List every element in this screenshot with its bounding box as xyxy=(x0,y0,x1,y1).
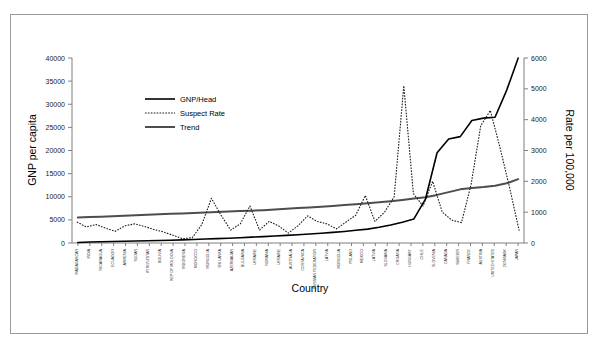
svg-text:20000: 20000 xyxy=(46,147,66,154)
svg-text:COSTA RICA: COSTA RICA xyxy=(301,248,305,270)
svg-text:2000: 2000 xyxy=(531,178,547,185)
svg-text:4000: 4000 xyxy=(531,116,547,123)
svg-text:INDONESIA: INDONESIA xyxy=(182,248,186,268)
svg-text:MEXICO: MEXICO xyxy=(360,249,364,263)
svg-text:0: 0 xyxy=(531,240,535,247)
svg-text:MOROCCO: MOROCCO xyxy=(194,249,198,268)
svg-text:DENMARK: DENMARK xyxy=(503,248,507,267)
svg-text:ECUADOR: ECUADOR xyxy=(111,249,115,267)
svg-text:MONGOLIA: MONGOLIA xyxy=(206,248,210,268)
svg-text:REP OF MOLDOVA: REP OF MOLDOVA xyxy=(170,248,174,281)
svg-text:ARMENIA: ARMENIA xyxy=(123,248,127,265)
svg-text:SRI LANKA: SRI LANKA xyxy=(218,248,222,267)
svg-text:AUSTRIA: AUSTRIA xyxy=(479,248,483,264)
svg-text:BULGARIA: BULGARIA xyxy=(241,248,245,267)
legend-label-suspect-rate: Suspect Rate xyxy=(180,109,225,118)
chart-svg: 0500010000150002000025000300003500040000… xyxy=(0,0,608,350)
svg-text:LATVIA: LATVIA xyxy=(372,248,376,261)
svg-text:ROMANIA: ROMANIA xyxy=(265,248,269,265)
svg-text:AZERBAIJAN: AZERBAIJAN xyxy=(230,249,234,272)
y-axis-title: GNP per capita xyxy=(26,114,38,186)
right-axis-ticks: 0100020003000400050006000 xyxy=(524,55,547,247)
svg-text:3000: 3000 xyxy=(531,147,547,154)
svg-text:AUSTRALIA: AUSTRALIA xyxy=(289,248,293,269)
x-axis-title: Country xyxy=(292,282,330,294)
svg-text:BOLIVIA: BOLIVIA xyxy=(158,248,162,263)
svg-text:HUNGARY: HUNGARY xyxy=(408,248,412,267)
svg-text:SLOVENIA: SLOVENIA xyxy=(432,248,436,267)
svg-text:KYRGYZSTAN: KYRGYZSTAN xyxy=(146,249,150,273)
svg-text:30000: 30000 xyxy=(46,101,66,108)
svg-text:5000: 5000 xyxy=(531,85,547,92)
svg-text:40000: 40000 xyxy=(46,55,66,62)
svg-text:SUDAN: SUDAN xyxy=(134,249,138,262)
svg-text:5000: 5000 xyxy=(49,216,65,223)
svg-text:MADAGASCAR: MADAGASCAR xyxy=(75,249,79,275)
chart-legend: GNP/Head Suspect Rate Trend xyxy=(145,95,225,132)
svg-text:JAPAN: JAPAN xyxy=(515,249,519,261)
legend-label-trend: Trend xyxy=(180,123,199,132)
svg-text:CANADA: CANADA xyxy=(444,248,448,264)
svg-text:UNITED STATES: UNITED STATES xyxy=(491,248,495,276)
legend-label-gnp-head: GNP/Head xyxy=(180,95,216,104)
svg-text:15000: 15000 xyxy=(46,170,66,177)
svg-text:SLOVAKIA: SLOVAKIA xyxy=(384,248,388,266)
svg-text:SWEDEN: SWEDEN xyxy=(456,249,460,265)
svg-text:MONGOLIA: MONGOLIA xyxy=(337,248,341,268)
svg-text:25000: 25000 xyxy=(46,124,66,131)
chart-canvas: 0500010000150002000025000300003500040000… xyxy=(0,0,608,350)
svg-text:1000: 1000 xyxy=(531,209,547,216)
svg-text:CROATIA: CROATIA xyxy=(396,248,400,264)
series-line-trend xyxy=(78,179,518,217)
svg-text:CHILE: CHILE xyxy=(420,248,424,259)
svg-text:INDIA: INDIA xyxy=(87,248,91,258)
svg-text:POLAND: POLAND xyxy=(349,249,353,264)
svg-text:10000: 10000 xyxy=(46,193,66,200)
svg-text:NICARAGUA: NICARAGUA xyxy=(99,248,103,270)
svg-text:UKRAINE: UKRAINE xyxy=(277,248,281,265)
svg-text:6000: 6000 xyxy=(531,55,547,62)
left-axis-ticks: 0500010000150002000025000300003500040000 xyxy=(46,55,72,247)
svg-text:35000: 35000 xyxy=(46,78,66,85)
svg-text:FRANCE: FRANCE xyxy=(467,248,471,263)
y2-axis-title: Rate per 100,000 xyxy=(564,109,576,190)
svg-text:0: 0 xyxy=(61,240,65,247)
svg-text:UKRAINE: UKRAINE xyxy=(253,248,257,265)
svg-text:LATVIA: LATVIA xyxy=(325,248,329,261)
